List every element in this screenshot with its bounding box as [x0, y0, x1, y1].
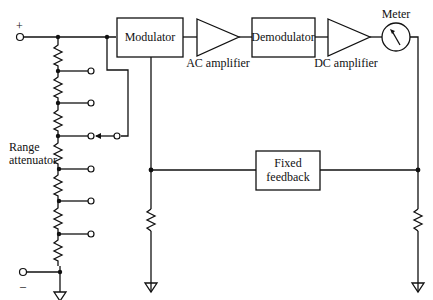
diagram-canvas: + Range attenuator – Modulator AC amplif… — [0, 0, 433, 300]
tap-terminal-icon[interactable] — [88, 100, 94, 106]
negative-label: – — [19, 279, 27, 293]
range-label: Range — [9, 140, 40, 154]
circuit-diagram: + Range attenuator – Modulator AC amplif… — [0, 0, 433, 300]
tap-terminal-icon[interactable] — [88, 231, 94, 237]
ac-amplifier-triangle-icon — [197, 19, 239, 56]
positive-label: + — [16, 19, 23, 33]
switch-arrowhead-icon — [95, 133, 101, 139]
resistor-icon — [54, 103, 62, 136]
demodulator-label: Demodulator — [251, 30, 314, 44]
resistor-icon — [54, 37, 62, 71]
attenuator-label: attenuator — [9, 153, 57, 167]
fixed-label: Fixed — [274, 156, 301, 170]
tap-terminal-icon[interactable] — [88, 68, 94, 74]
tap-terminal-icon[interactable] — [88, 198, 94, 204]
meter-label: Meter — [382, 7, 411, 21]
resistor-icon — [54, 234, 62, 266]
switch-terminal-icon[interactable] — [114, 133, 120, 139]
resistor-icon — [54, 169, 62, 201]
attenuator-taps[interactable] — [56, 68, 94, 237]
negative-terminal-icon — [20, 269, 27, 276]
ground-icon — [54, 292, 66, 300]
resistor-icon — [54, 71, 62, 103]
feedback-label: feedback — [266, 170, 309, 184]
tap-terminal-icon[interactable] — [88, 133, 94, 139]
meter-return-wire — [410, 37, 418, 292]
modulator-label: Modulator — [125, 30, 176, 44]
tap-terminal-icon[interactable] — [88, 166, 94, 172]
dc-amplifier-triangle-icon — [328, 19, 370, 56]
ac-amplifier-label: AC amplifier — [186, 56, 250, 70]
resistor-icon — [54, 201, 62, 234]
positive-terminal-icon — [17, 34, 24, 41]
dc-amplifier-label: DC amplifier — [314, 56, 378, 70]
